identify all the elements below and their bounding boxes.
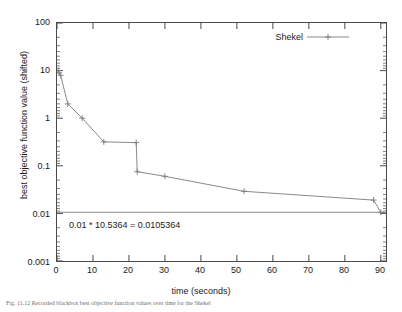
x-tick-label-0: 0 xyxy=(40,266,72,275)
figure-caption: Fig. 11.12 Recorded blackbox best object… xyxy=(6,300,402,306)
x-axis-title: time (seconds) xyxy=(0,286,402,296)
plot-area: Shekel 0.01 * 10.5364 = 0.0105364 xyxy=(56,22,387,262)
x-tick-label-60: 60 xyxy=(256,266,288,275)
x-tick-label-70: 70 xyxy=(292,266,324,275)
y-tick-label-100: 100 xyxy=(6,18,50,27)
x-tick-label-90: 90 xyxy=(364,266,396,275)
x-tick-label-30: 30 xyxy=(148,266,180,275)
y-tick-label-10: 10 xyxy=(6,66,50,75)
x-tick-label-50: 50 xyxy=(220,266,252,275)
series-shekel-markers xyxy=(57,68,384,216)
target-value-annotation: 0.01 * 10.5364 = 0.0105364 xyxy=(69,220,180,230)
figure: best objective function value (shifted) … xyxy=(0,0,402,312)
y-tick-label-0.1: 0.1 xyxy=(6,162,50,171)
y-axis-title: best objective function value (shifted) xyxy=(19,5,29,245)
x-tick-label-10: 10 xyxy=(76,266,108,275)
y-tick-label-1: 1 xyxy=(6,114,50,123)
x-tick-label-20: 20 xyxy=(112,266,144,275)
x-tick-label-40: 40 xyxy=(184,266,216,275)
legend-sample-line xyxy=(307,34,349,40)
y-tick-label-0.01: 0.01 xyxy=(6,210,50,219)
x-tick-label-80: 80 xyxy=(328,266,360,275)
legend-entry-shekel: Shekel xyxy=(225,32,303,42)
